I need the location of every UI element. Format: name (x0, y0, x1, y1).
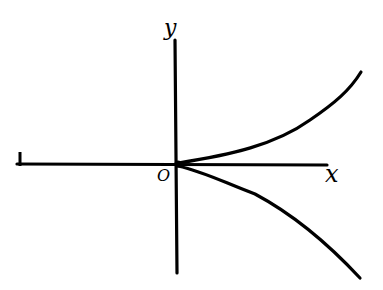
axes-and-curves (0, 0, 383, 290)
y-axis-label: y (164, 17, 176, 39)
curve-upper-branch (178, 72, 361, 163)
origin-point (175, 161, 182, 168)
origin-label: O (157, 168, 170, 184)
x-axis (17, 164, 327, 165)
y-axis (175, 40, 177, 273)
x-axis-label: x (325, 162, 339, 186)
diagram-canvas: y x O (0, 0, 383, 290)
